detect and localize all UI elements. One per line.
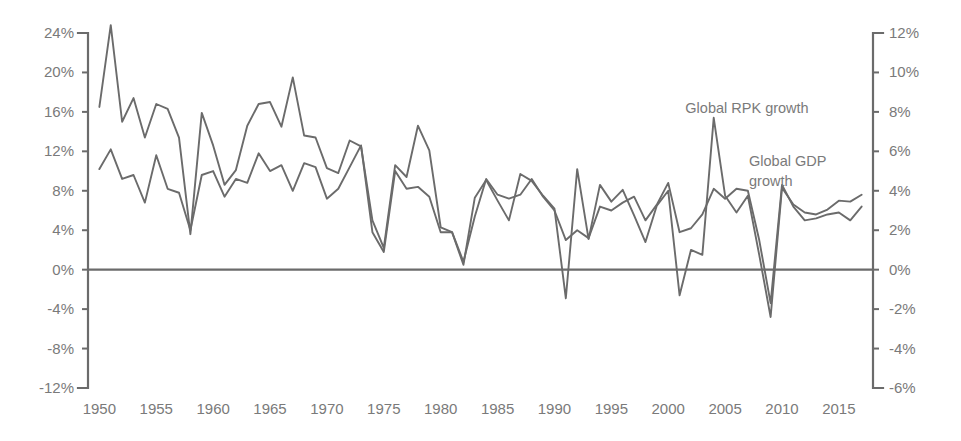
dual-axis-line-chart: 24%20%16%12%8%4%0%-4%-8%-12% 12%10%8%6%4… xyxy=(0,0,961,441)
series-annotations: Global RPK growthGlobal GDPgrowth xyxy=(685,100,826,189)
x-axis-tick-label: 2005 xyxy=(708,400,741,417)
right-axis-tick-label: 0% xyxy=(889,261,911,278)
x-axis-tick-label: 1950 xyxy=(83,400,116,417)
left-axis-tick-label: 24% xyxy=(44,24,74,41)
x-axis-tick-label: 2000 xyxy=(652,400,685,417)
right-axis-tick-label: 6% xyxy=(889,142,911,159)
right-axis-tick-label: 8% xyxy=(889,103,911,120)
right-axis-tick-label: -2% xyxy=(889,300,916,317)
x-axis-tick-label: 1995 xyxy=(595,400,628,417)
x-axis-tick-label: 1955 xyxy=(140,400,173,417)
right-axis-tick-label: 4% xyxy=(889,182,911,199)
left-axis-tick-label: 20% xyxy=(44,63,74,80)
annotation-gdp-label-line2: growth xyxy=(749,173,793,189)
left-axis-tick-label: 8% xyxy=(52,182,74,199)
left-axis-spine xyxy=(78,33,88,388)
right-axis: 12%10%8%6%4%2%0%-2%-4%-6% xyxy=(873,24,919,396)
x-axis-tick-label: 1975 xyxy=(367,400,400,417)
series-line-global-gdp-growth xyxy=(99,145,861,303)
left-axis-tick-label: 0% xyxy=(52,261,74,278)
x-axis-tick-label: 2010 xyxy=(765,400,798,417)
x-axis-tick-label: 1980 xyxy=(424,400,457,417)
x-axis-tick-label: 1990 xyxy=(538,400,571,417)
right-axis-tick-label: 12% xyxy=(889,24,919,41)
left-axis-tick-label: -12% xyxy=(39,379,74,396)
bottom-axis: 1950195519601965197019751980198519901995… xyxy=(83,400,856,417)
series-lines xyxy=(99,25,861,317)
annotation-rpk-label: Global RPK growth xyxy=(685,100,808,116)
right-axis-tick-label: -4% xyxy=(889,340,916,357)
right-axis-spine xyxy=(873,33,883,388)
chart-container: 24%20%16%12%8%4%0%-4%-8%-12% 12%10%8%6%4… xyxy=(0,0,961,441)
left-axis-tick-label: 4% xyxy=(52,221,74,238)
left-axis: 24%20%16%12%8%4%0%-4%-8%-12% xyxy=(39,24,88,396)
x-axis-tick-label: 1960 xyxy=(196,400,229,417)
x-axis-tick-label: 1970 xyxy=(310,400,343,417)
right-axis-tick-label: 2% xyxy=(889,221,911,238)
right-axis-tick-label: -6% xyxy=(889,379,916,396)
left-axis-tick-label: 12% xyxy=(44,142,74,159)
left-axis-tick-label: 16% xyxy=(44,103,74,120)
annotation-gdp-label: Global GDP xyxy=(749,153,826,169)
right-axis-tick-label: 10% xyxy=(889,63,919,80)
left-axis-tick-label: -8% xyxy=(47,340,74,357)
left-axis-tick-label: -4% xyxy=(47,300,74,317)
x-axis-tick-label: 1985 xyxy=(481,400,514,417)
x-axis-tick-label: 1965 xyxy=(253,400,286,417)
x-axis-tick-label: 2015 xyxy=(822,400,855,417)
